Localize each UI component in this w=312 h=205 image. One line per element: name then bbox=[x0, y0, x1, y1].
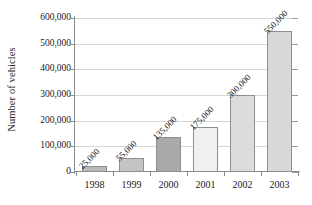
bar bbox=[230, 95, 255, 172]
x-axis-tick-label: 2003 bbox=[270, 180, 290, 190]
bar-chart-figure: Number of vehicles 0100,000200,000300,00… bbox=[0, 0, 312, 205]
x-axis-tick-label: 2000 bbox=[159, 180, 179, 190]
y-axis-tick-mark bbox=[70, 18, 75, 19]
right-edge-tick-mark bbox=[292, 121, 298, 122]
y-axis-tick-mark bbox=[70, 121, 75, 122]
y-axis-tick-label: 300,000 bbox=[40, 90, 71, 100]
x-axis-tick-label: 2001 bbox=[196, 180, 216, 190]
bar bbox=[156, 137, 181, 172]
y-axis-title: Number of vehicles bbox=[0, 0, 22, 178]
y-axis-tick-label: 200,000 bbox=[40, 116, 71, 126]
right-edge-tick-mark bbox=[292, 146, 298, 147]
x-axis-tick-label: 1999 bbox=[122, 180, 142, 190]
y-axis-tick-labels: 0100,000200,000300,000400,000500,000600,… bbox=[20, 18, 74, 172]
x-axis-tick-mark bbox=[261, 172, 262, 176]
y-axis-tick-label: 500,000 bbox=[40, 39, 71, 49]
x-axis-tick-labels: 199819992000200120022003 bbox=[74, 176, 300, 194]
plot-area: 25,00055,000135,000175,000300,000550,000 bbox=[74, 18, 296, 172]
gridline bbox=[74, 44, 296, 45]
x-axis-tick-mark bbox=[76, 172, 77, 176]
right-edge-tick-mark bbox=[292, 69, 298, 70]
y-axis-tick-mark bbox=[70, 172, 75, 173]
x-axis-tick-mark bbox=[113, 172, 114, 176]
y-axis-tick-mark bbox=[70, 44, 75, 45]
x-axis-tick-label: 1998 bbox=[85, 180, 105, 190]
y-axis-tick-mark bbox=[70, 146, 75, 147]
y-axis-tick-mark bbox=[70, 69, 75, 70]
gridline bbox=[74, 146, 296, 147]
x-axis-tick-label: 2002 bbox=[233, 180, 253, 190]
x-axis-tick-mark bbox=[298, 172, 299, 176]
x-axis-tick-mark bbox=[224, 172, 225, 176]
y-axis-tick-mark bbox=[70, 95, 75, 96]
y-axis-tick-label: 600,000 bbox=[40, 13, 71, 23]
gridline bbox=[74, 95, 296, 96]
y-axis-tick-label: 100,000 bbox=[40, 142, 71, 152]
y-axis-title-label: Number of vehicles bbox=[6, 47, 17, 132]
gridline bbox=[74, 18, 296, 19]
x-axis-tick-mark bbox=[150, 172, 151, 176]
y-axis-tick-label: 400,000 bbox=[40, 65, 71, 75]
gridline bbox=[74, 121, 296, 122]
right-edge-tick-mark bbox=[292, 18, 298, 19]
right-edge-tick-mark bbox=[292, 95, 298, 96]
bar bbox=[267, 31, 292, 172]
right-edge-tick-mark bbox=[292, 44, 298, 45]
bar bbox=[193, 127, 218, 172]
x-axis-tick-mark bbox=[187, 172, 188, 176]
gridline bbox=[74, 69, 296, 70]
